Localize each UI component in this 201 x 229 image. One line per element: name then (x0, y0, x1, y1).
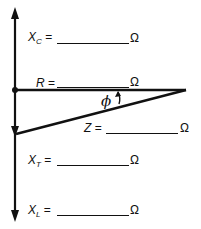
xc-label: XC = (28, 30, 52, 49)
xt-label: XT = (28, 153, 51, 172)
arrow-down-icon (11, 210, 19, 222)
xl-label: XL = (28, 203, 51, 222)
xl-input[interactable] (57, 215, 129, 216)
xc-unit: Ω (130, 31, 139, 45)
z-unit: Ω (180, 121, 189, 135)
arrow-up-icon (11, 7, 19, 19)
xt-unit: Ω (130, 153, 139, 167)
xl-unit: Ω (130, 203, 139, 217)
xt-input[interactable] (57, 165, 129, 166)
r-label: R = (36, 76, 55, 90)
angle-arrow-icon (115, 91, 121, 97)
phase-angle-label: ϕ (101, 93, 111, 109)
arrow-down-mid-icon (11, 126, 19, 137)
xc-input[interactable] (57, 43, 129, 44)
r-input[interactable] (57, 87, 129, 88)
z-input[interactable] (106, 133, 178, 134)
r-unit: Ω (130, 75, 139, 89)
z-label: Z = (84, 121, 102, 135)
